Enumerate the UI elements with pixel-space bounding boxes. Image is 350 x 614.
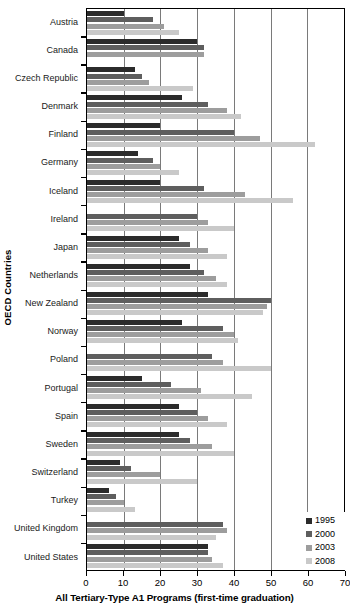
country-group xyxy=(87,177,344,205)
bar-2008 xyxy=(87,451,234,456)
bar-row xyxy=(87,394,344,399)
bar-row xyxy=(87,276,344,281)
legend-label: 1995 xyxy=(315,516,335,525)
bar-row xyxy=(87,11,344,16)
bar-2000 xyxy=(87,158,153,163)
category-label: Denmark xyxy=(14,92,82,120)
legend-swatch-icon xyxy=(306,531,312,537)
bar-2008 xyxy=(87,535,216,540)
bar-2000 xyxy=(87,354,212,359)
bar-row xyxy=(87,376,344,381)
category-label: Japan xyxy=(14,233,82,261)
bar-row xyxy=(87,479,344,484)
bar-row xyxy=(87,170,344,175)
bar-2003 xyxy=(87,80,149,85)
country-group xyxy=(87,121,344,149)
x-axis-title: All Tertiary-Type A1 Programs (first-tim… xyxy=(0,592,349,603)
bar-2000 xyxy=(87,410,197,415)
bar-row xyxy=(87,208,344,213)
bar-row xyxy=(87,354,344,359)
bar-2000 xyxy=(87,438,190,443)
bar-row xyxy=(87,422,344,427)
country-group xyxy=(87,402,344,430)
category-label: Portugal xyxy=(14,374,82,402)
bar-row xyxy=(87,304,344,309)
x-axis-tick-label: 60 xyxy=(303,576,314,589)
bar-1995 xyxy=(87,432,179,437)
bar-row xyxy=(87,298,344,303)
bar-2003 xyxy=(87,164,160,169)
bar-row xyxy=(87,332,344,337)
country-group xyxy=(87,9,344,37)
legend-item: 2003 xyxy=(306,542,345,554)
bar-row xyxy=(87,488,344,493)
bar-2008 xyxy=(87,394,252,399)
bar-2008 xyxy=(87,282,227,287)
bar-row xyxy=(87,410,344,415)
x-axis-tick-label: 0 xyxy=(83,576,88,589)
bar-row xyxy=(87,500,344,505)
bar-2008 xyxy=(87,310,263,315)
bar-row xyxy=(87,451,344,456)
category-label: Finland xyxy=(14,121,82,149)
bar-row xyxy=(87,472,344,477)
country-group xyxy=(87,458,344,486)
bar-row xyxy=(87,460,344,465)
category-axis-labels: AustriaCanadaCzech RepublicDenmarkFinlan… xyxy=(14,8,82,571)
bar-1995 xyxy=(87,544,208,549)
bar-row xyxy=(87,186,344,191)
bar-2003 xyxy=(87,304,267,309)
country-group xyxy=(87,93,344,121)
bar-row xyxy=(87,74,344,79)
y-axis-title-text: OECD Countries xyxy=(3,250,14,326)
country-group xyxy=(87,289,344,317)
bar-2003 xyxy=(87,472,160,477)
bar-2003 xyxy=(87,557,212,562)
bar-1995 xyxy=(87,39,197,44)
bar-row xyxy=(87,102,344,107)
country-group xyxy=(87,430,344,458)
bar-row xyxy=(87,86,344,91)
country-group xyxy=(87,205,344,233)
bar-2003 xyxy=(87,24,164,29)
category-label: Ireland xyxy=(14,205,82,233)
x-axis-tick-label: 20 xyxy=(155,576,166,589)
legend-swatch-icon xyxy=(306,518,312,524)
country-group xyxy=(87,318,344,346)
country-group xyxy=(87,37,344,65)
bar-row xyxy=(87,326,344,331)
bar-2000 xyxy=(87,130,234,135)
bar-2003 xyxy=(87,248,208,253)
bar-2008 xyxy=(87,142,315,147)
bar-row xyxy=(87,254,344,259)
bar-2000 xyxy=(87,186,204,191)
bar-2000 xyxy=(87,102,208,107)
bar-row xyxy=(87,270,344,275)
bar-1995 xyxy=(87,460,120,465)
bar-2000 xyxy=(87,382,171,387)
bar-row xyxy=(87,80,344,85)
bar-row xyxy=(87,282,344,287)
category-label: Poland xyxy=(14,346,82,374)
bar-2008 xyxy=(87,479,197,484)
category-label: Spain xyxy=(14,402,82,430)
bar-row xyxy=(87,198,344,203)
bar-row xyxy=(87,242,344,247)
bar-row xyxy=(87,264,344,269)
bar-row xyxy=(87,45,344,50)
bar-row xyxy=(87,432,344,437)
x-axis-tick-label: 70 xyxy=(340,576,350,589)
category-label: Sweden xyxy=(14,430,82,458)
bar-row xyxy=(87,58,344,63)
bars-layer xyxy=(87,9,344,570)
bar-2003 xyxy=(87,528,227,533)
bar-row xyxy=(87,192,344,197)
bar-row xyxy=(87,320,344,325)
bar-1995 xyxy=(87,320,182,325)
bar-row xyxy=(87,220,344,225)
bar-1995 xyxy=(87,236,179,241)
bar-row xyxy=(87,444,344,449)
category-label: Iceland xyxy=(14,177,82,205)
bar-2000 xyxy=(87,45,204,50)
bar-1995 xyxy=(87,11,124,16)
